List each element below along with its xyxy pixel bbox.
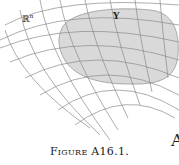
space-label-rn: ℝn	[22, 12, 33, 24]
figure-caption: Figure A16.1.	[0, 145, 179, 158]
region-label-y: Y	[113, 11, 119, 21]
space-exponent: n	[29, 12, 33, 19]
